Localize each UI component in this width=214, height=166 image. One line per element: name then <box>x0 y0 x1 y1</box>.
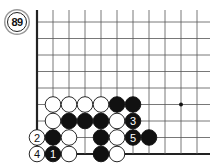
white-stone <box>61 130 77 146</box>
black-stone <box>45 130 61 146</box>
black-stone <box>141 130 157 146</box>
black-stone <box>109 97 125 113</box>
black-stone <box>77 113 93 129</box>
black-stone <box>93 113 109 129</box>
star-point <box>179 103 183 107</box>
star-points <box>179 103 183 107</box>
move-number-label: 2 <box>34 132 40 144</box>
black-stone <box>125 97 141 113</box>
white-stone <box>45 97 61 113</box>
go-board: 32541 <box>0 0 214 166</box>
white-stone <box>109 146 125 162</box>
black-stone <box>61 113 77 129</box>
white-stone <box>61 97 77 113</box>
black-stone <box>93 130 109 146</box>
move-number-label: 3 <box>130 115 136 127</box>
black-stone: 1 <box>45 146 61 162</box>
move-number-label: 4 <box>34 148 40 160</box>
white-stone <box>45 113 61 129</box>
white-stone <box>93 97 109 113</box>
white-stone: 4 <box>29 146 45 162</box>
white-stone <box>109 113 125 129</box>
move-number-label: 1 <box>50 148 56 160</box>
stones-layer: 32541 <box>29 97 157 162</box>
white-stone <box>109 130 125 146</box>
white-stone <box>77 97 93 113</box>
black-stone: 3 <box>125 113 141 129</box>
black-stone: 5 <box>125 130 141 146</box>
white-stone: 2 <box>29 130 45 146</box>
black-stone <box>93 146 109 162</box>
move-number-label: 5 <box>130 132 136 144</box>
white-stone <box>61 146 77 162</box>
